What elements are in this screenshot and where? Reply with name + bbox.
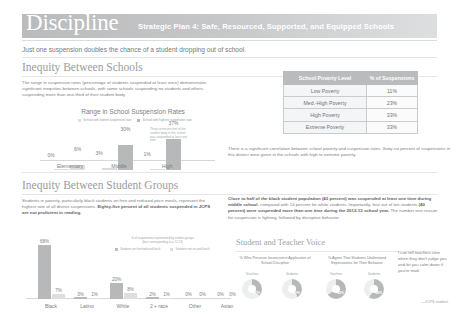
legend-swatch-low bbox=[78, 119, 81, 122]
chart2-bar-black-paid bbox=[52, 294, 65, 300]
chart2-value-multirace-frl: 2% bbox=[146, 292, 159, 297]
chart2-value-multirace-paid: 1% bbox=[160, 292, 173, 297]
table-cell-value: 33% bbox=[367, 121, 418, 133]
section-title-groups: Inequity Between Student Groups bbox=[22, 179, 178, 192]
chart2-bar-multirace-frl bbox=[146, 297, 159, 299]
chart2-value-black-paid: 7% bbox=[52, 288, 65, 293]
student-quote-attribution: —JCPS student bbox=[398, 300, 448, 305]
mid-divider bbox=[22, 172, 437, 173]
table-row: High Poverty 33% bbox=[284, 109, 418, 121]
pie-group-1-heading: % Who Perceive Inconsistent Application … bbox=[238, 256, 312, 266]
chart1-title: Range in School Suspension Rates bbox=[63, 108, 203, 116]
chart2-category-latino: Latino bbox=[67, 303, 107, 310]
pie-1b-value: 40% bbox=[293, 291, 300, 295]
table-cell-value: 33% bbox=[367, 109, 418, 121]
section-title-schools: Inequity Between Schools bbox=[22, 61, 143, 74]
chart1-value-middle-low: 3% bbox=[92, 150, 106, 156]
chart2-value-latino-paid: 1% bbox=[88, 292, 101, 297]
pie-students-inconsistent-discipline: 40% bbox=[282, 279, 302, 299]
groups-para-plain-2: compared with 14 percent for white stude… bbox=[259, 202, 419, 207]
chart2-bar-black-frl bbox=[38, 245, 51, 299]
chart1-annotation: Thirty-seven percent of the student body… bbox=[150, 128, 190, 143]
chart2-value-black-frl: 68% bbox=[38, 239, 51, 244]
pie-2a-label: Teachers bbox=[322, 272, 350, 276]
table-col-poverty-level: School Poverty Level bbox=[284, 72, 367, 85]
chart2-bar-white-frl bbox=[110, 283, 123, 299]
table-header-row: School Poverty Level % of Suspensions bbox=[284, 72, 418, 85]
chart-suspensions-by-student-group: 68% 7% Black 3% 1% Latino 20% 8% White 2… bbox=[26, 234, 231, 310]
pie-1b-label: Students bbox=[278, 272, 306, 276]
chart2-value-white-paid: 8% bbox=[124, 287, 137, 292]
voice-section-title: Student and Teacher Voice bbox=[236, 238, 325, 248]
section-schools-paragraph: The range in suspension rates (percentag… bbox=[22, 80, 222, 99]
pie-teachers-expectations-understood: 65% bbox=[326, 279, 346, 299]
chart1-value-elementary-high: 6% bbox=[70, 146, 85, 152]
chart2-category-multirace: 2 + race bbox=[139, 303, 179, 310]
infographic-page: Discipline Strategic Plan 4: Safe, Resou… bbox=[0, 0, 459, 317]
page-title: Discipline bbox=[26, 11, 119, 34]
page-subtitle: Strategic Plan 4: Safe, Resourced, Suppo… bbox=[138, 22, 394, 31]
pie-1a-value: 37% bbox=[253, 291, 260, 295]
section-groups-divider bbox=[22, 194, 437, 195]
chart2-category-white: White bbox=[103, 303, 143, 310]
chart2-value-other-paid: 0% bbox=[196, 292, 209, 297]
chart1-value-high-high: 37% bbox=[166, 120, 181, 126]
chart2-value-asian-paid: 0% bbox=[226, 292, 239, 297]
table-col-pct-suspensions: % of Suspensions bbox=[367, 72, 418, 85]
table-cell-level: Extreme Poverty bbox=[284, 121, 367, 133]
chart1-category-elementary: Elementary bbox=[46, 163, 94, 170]
chart1-category-high: High bbox=[143, 163, 191, 170]
tagline: Just one suspension doubles the chance o… bbox=[22, 45, 437, 54]
section-groups-paragraph-right: Close to half of the black student popul… bbox=[228, 196, 438, 221]
chart2-value-other-frl: 0% bbox=[182, 292, 195, 297]
chart2-value-white-frl: 20% bbox=[110, 277, 123, 282]
chart2-bar-multirace-paid bbox=[160, 298, 173, 299]
chart1-legend: School with lowest suspension rateSchool… bbox=[55, 118, 215, 122]
chart2-category-black: Black bbox=[31, 303, 71, 310]
pie-1a-label: Teachers bbox=[238, 272, 266, 276]
pie-2a-value: 65% bbox=[337, 291, 344, 295]
table-row: Low Poverty 11% bbox=[284, 85, 418, 97]
legend-swatch-high bbox=[137, 119, 140, 122]
table-cell-level: High Poverty bbox=[284, 109, 367, 121]
chart1-legend-label-0: School with lowest suspension rate bbox=[83, 118, 131, 122]
poverty-suspension-table: School Poverty Level % of Suspensions Lo… bbox=[283, 71, 418, 134]
pie-2b-value: 58% bbox=[375, 291, 382, 295]
chart2-bar-latino-paid bbox=[88, 298, 101, 299]
poverty-table-note: There is a significant correlation betwe… bbox=[228, 146, 452, 158]
chart2-value-latino-frl: 3% bbox=[74, 292, 87, 297]
table-cell-value: 11% bbox=[367, 85, 418, 97]
chart1-value-elementary-low: 0% bbox=[44, 152, 58, 158]
student-quote: I can tell teachers care when they don't… bbox=[398, 250, 448, 274]
header-divider bbox=[22, 40, 437, 41]
pie-group-2-heading: % Agree That Students Understand Expecta… bbox=[320, 256, 394, 266]
chart2-bar-white-paid bbox=[124, 293, 137, 300]
table-cell-level: Low Poverty bbox=[284, 85, 367, 97]
table-cell-level: Med.-High Poverty bbox=[284, 97, 367, 109]
chart2-category-asian: Asian bbox=[207, 303, 247, 310]
chart1-value-high-low: 1% bbox=[140, 151, 154, 157]
table-row: Med.-High Poverty 23% bbox=[284, 97, 418, 109]
table-row: Extreme Poverty 33% bbox=[284, 121, 418, 133]
section-groups-paragraph-left: Students in poverty, particularly black … bbox=[22, 198, 217, 217]
pie-2b-label: Students bbox=[360, 272, 388, 276]
pie-students-expectations-understood: 58% bbox=[364, 279, 384, 299]
pie-teachers-inconsistent-discipline: 37% bbox=[242, 279, 262, 299]
chart1-category-middle: Middle bbox=[95, 163, 143, 170]
chart1-value-middle-high: 30% bbox=[118, 126, 133, 132]
tagline-divider bbox=[22, 57, 437, 58]
table-cell-value: 23% bbox=[367, 97, 418, 109]
